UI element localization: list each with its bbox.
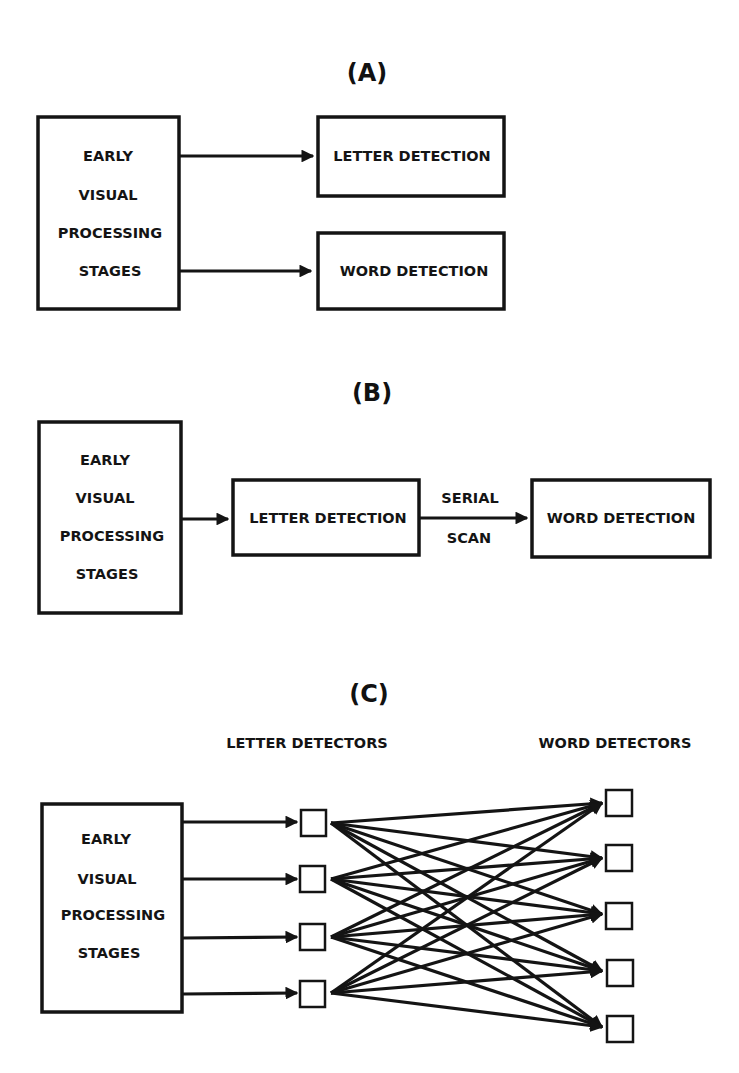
source-line-2: VISUAL (76, 490, 135, 506)
panel-a-letter-detection-box: LETTER DETECTION (318, 117, 504, 196)
letter-detector-2 (300, 866, 325, 892)
source-line-2: VISUAL (79, 187, 138, 203)
word-detector-nodes (606, 790, 633, 1042)
panel-b: (B) EARLY VISUAL PROCESSING STAGES LETTE… (39, 379, 710, 613)
source-line-4: STAGES (76, 566, 139, 582)
word-detector-4 (607, 960, 633, 986)
letter-detectors-heading: LETTER DETECTORS (226, 735, 388, 751)
source-line-4: STAGES (78, 945, 141, 961)
letter-detector-3 (300, 924, 325, 950)
letter-detector-nodes (300, 810, 326, 1007)
panel-b-title: (B) (352, 379, 392, 407)
word-detection-label: WORD DETECTION (340, 263, 489, 279)
arrow-to-letter-detector-4 (183, 993, 297, 994)
panel-a-source-box: EARLY VISUAL PROCESSING STAGES (38, 117, 179, 309)
letter-detector-4 (300, 981, 325, 1007)
letter-detection-label: LETTER DETECTION (249, 510, 407, 526)
panel-a-title: (A) (347, 59, 388, 87)
letter-to-word-connections (331, 803, 602, 1027)
panel-c-title: (C) (349, 680, 389, 708)
word-detector-5 (607, 1016, 633, 1042)
word-detector-2 (606, 845, 632, 871)
panel-b-letter-detection-box: LETTER DETECTION (233, 480, 419, 555)
source-line-3: PROCESSING (60, 528, 164, 544)
letter-detection-label: LETTER DETECTION (333, 148, 491, 164)
source-line-2: VISUAL (78, 871, 137, 887)
word-detectors-heading: WORD DETECTORS (539, 735, 692, 751)
source-line-4: STAGES (79, 263, 142, 279)
panel-a: (A) EARLY VISUAL PROCESSING STAGES LETTE… (38, 59, 504, 309)
source-to-letter-arrows (183, 822, 297, 994)
edge-label-serial: SERIAL (441, 490, 498, 506)
source-line-1: EARLY (81, 831, 131, 847)
source-line-3: PROCESSING (58, 225, 162, 241)
source-line-1: EARLY (83, 148, 133, 164)
edge-label-scan: SCAN (447, 530, 491, 546)
diagram-canvas: (A) EARLY VISUAL PROCESSING STAGES LETTE… (0, 0, 739, 1073)
word-detection-label: WORD DETECTION (547, 510, 696, 526)
arrow-to-letter-detector-3 (183, 937, 297, 938)
word-detector-1 (606, 790, 632, 816)
panel-a-word-detection-box: WORD DETECTION (318, 233, 504, 309)
panel-c: (C) LETTER DETECTORS WORD DETECTORS EARL… (42, 680, 691, 1042)
source-line-3: PROCESSING (61, 907, 165, 923)
letter-detector-1 (301, 810, 326, 836)
panel-c-source-box: EARLY VISUAL PROCESSING STAGES (42, 804, 182, 1012)
panel-b-word-detection-box: WORD DETECTION (532, 480, 710, 557)
source-line-1: EARLY (80, 452, 130, 468)
panel-b-source-box: EARLY VISUAL PROCESSING STAGES (39, 422, 181, 613)
word-detector-3 (606, 903, 632, 929)
